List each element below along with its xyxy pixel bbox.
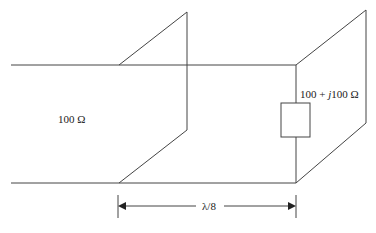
arrow-right-icon [288,202,296,210]
load-impedance-box [281,103,310,137]
length-dimension: λ/8 [118,195,296,218]
arrow-left-icon [118,202,126,210]
reference-plane [119,12,187,183]
transmission-line-diagram: 100 Ω 100 + j100 Ω λ/8 [0,0,376,233]
line-impedance-label: 100 Ω [58,113,85,125]
length-label: λ/8 [202,200,216,212]
load-impedance-label: 100 + j100 Ω [300,88,359,100]
